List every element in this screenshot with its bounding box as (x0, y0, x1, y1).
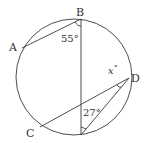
geometry-diagram: B A D C 55° 27° x ° (0, 0, 149, 143)
angle-arc-b (75, 22, 81, 26)
label-d: D (131, 72, 140, 85)
angle-arc-d (117, 85, 121, 87)
angle-label-27: 27° (83, 107, 101, 118)
chord-cd (40, 78, 129, 127)
angle-label-55: 55° (61, 33, 79, 44)
label-a: A (8, 41, 18, 54)
label-b: B (76, 6, 84, 19)
angle-label-x-degree: ° (114, 64, 118, 72)
angle-arc-bottom (81, 127, 86, 129)
label-c: C (26, 127, 34, 140)
